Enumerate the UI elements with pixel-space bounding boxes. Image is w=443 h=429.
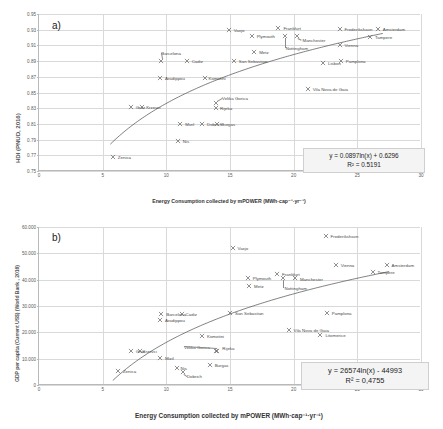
data-point-label: Nottingham: [286, 45, 308, 50]
data-point-marker[interactable]: [324, 311, 329, 316]
y-tick-label: 0.89: [27, 59, 36, 64]
data-point-label: Tampere: [375, 34, 392, 39]
x-tick-label: 10: [164, 387, 169, 392]
data-point-marker[interactable]: [179, 311, 184, 316]
trendline-r2: R² = 0.5191: [310, 161, 418, 170]
y-axis-label: HDI (PNUD, 2016): [14, 113, 21, 163]
data-point-label: Zenica: [118, 154, 131, 159]
data-point-marker[interactable]: [337, 26, 342, 31]
x-tick-label: 10: [164, 173, 169, 178]
x-tick-label: 20: [291, 387, 296, 392]
data-point-label: Vaxjo: [238, 245, 249, 250]
y-tick-label: 40.000: [22, 277, 36, 282]
y-tick-label: 0.75: [27, 169, 36, 174]
data-point-label: Manchester: [302, 37, 325, 42]
y-tick-label: 0.77: [27, 153, 36, 158]
x-tick-label: 20: [291, 173, 296, 178]
x-tick-label: 0: [38, 173, 41, 178]
data-point-marker[interactable]: [228, 311, 233, 316]
data-point-label: Vila Nova de Gaia: [294, 328, 329, 333]
data-point-label: Manchester: [300, 277, 323, 282]
data-point-marker[interactable]: [320, 60, 325, 65]
data-point-label: Litomerice: [325, 333, 345, 338]
data-point-marker[interactable]: [159, 311, 164, 316]
data-point-marker[interactable]: [199, 334, 204, 339]
trendline-equation: y = 0.0897ln(x) + 0.6296: [310, 152, 418, 161]
data-point-marker[interactable]: [368, 34, 373, 39]
y-tick-label: 0.91: [27, 43, 36, 48]
data-point-marker[interactable]: [226, 27, 231, 32]
x-tick-label: 15: [227, 387, 232, 392]
data-point-label: Plymouth: [257, 33, 275, 38]
data-point-marker[interactable]: [333, 262, 338, 267]
panel-tag: a): [52, 20, 61, 31]
y-tick-label: 0.93: [27, 27, 36, 32]
data-point-marker[interactable]: [128, 105, 133, 110]
data-point-marker[interactable]: [157, 318, 162, 323]
data-point-marker[interactable]: [286, 328, 291, 333]
trendline-equation: y = 26574ln(x) - 44993: [308, 366, 422, 376]
data-point-marker[interactable]: [174, 366, 179, 371]
y-tick-label: 30.000: [22, 304, 36, 309]
data-point-marker[interactable]: [207, 362, 212, 367]
data-point-marker[interactable]: [157, 356, 162, 361]
data-point-marker[interactable]: [202, 75, 207, 80]
chart-panel-a: 0510152025300.750.770.790.810.830.850.87…: [0, 0, 443, 214]
data-point-marker[interactable]: [215, 121, 220, 126]
data-point-marker[interactable]: [276, 26, 281, 31]
data-point-marker[interactable]: [275, 272, 280, 277]
label-leader-line: [285, 38, 286, 48]
data-point-marker[interactable]: [323, 233, 328, 238]
data-point-label: Dobrich: [187, 373, 202, 378]
data-point-marker[interactable]: [305, 86, 310, 91]
data-point-label: Cadiz: [192, 59, 203, 64]
data-point-marker[interactable]: [213, 349, 218, 354]
data-point-label: Barcelona: [161, 51, 181, 56]
data-point-label: Frankfurt: [283, 26, 301, 31]
data-point-marker[interactable]: [213, 106, 218, 111]
data-point-marker[interactable]: [231, 59, 236, 64]
data-point-label: Zenica: [123, 369, 136, 374]
data-point-marker[interactable]: [199, 121, 204, 126]
data-point-label: Velika Gorica: [222, 96, 248, 101]
y-tick-label: 10.000: [22, 356, 36, 361]
data-point-marker[interactable]: [110, 154, 115, 159]
data-point-marker[interactable]: [337, 43, 342, 48]
y-tick-label: 0.79: [27, 137, 36, 142]
data-point-marker[interactable]: [318, 333, 323, 338]
panel-tag: b): [52, 232, 61, 243]
data-point-marker[interactable]: [140, 105, 145, 110]
data-point-label: Rijeka: [222, 346, 234, 351]
y-tick-label: 0: [33, 383, 36, 388]
gridline-vertical: [421, 227, 422, 384]
data-point-marker[interactable]: [128, 348, 133, 353]
data-point-marker[interactable]: [230, 245, 235, 250]
data-point-marker[interactable]: [159, 59, 164, 64]
y-tick-label: 60.000: [22, 225, 36, 230]
data-point-label: Amsterdam: [392, 262, 414, 267]
chart-panel-b: 051015202530010.00020.00030.00040.00050.…: [0, 214, 443, 429]
data-point-marker[interactable]: [245, 276, 250, 281]
data-point-marker[interactable]: [137, 348, 142, 353]
x-tick-label: 15: [227, 173, 232, 178]
data-point-marker[interactable]: [175, 139, 180, 144]
data-point-marker[interactable]: [292, 276, 297, 281]
data-point-marker[interactable]: [247, 283, 252, 288]
data-point-marker[interactable]: [213, 101, 218, 106]
data-point-label: Frederikshavn: [345, 26, 373, 31]
data-point-marker[interactable]: [375, 26, 380, 31]
data-point-marker[interactable]: [370, 269, 375, 274]
data-point-marker[interactable]: [115, 369, 120, 374]
data-point-marker[interactable]: [384, 262, 389, 267]
y-tick-label: 0.83: [27, 106, 36, 111]
x-tick-label: 25: [355, 173, 360, 178]
data-point-marker[interactable]: [157, 75, 162, 80]
data-point-marker[interactable]: [178, 121, 183, 126]
data-point-marker[interactable]: [249, 33, 254, 38]
data-point-marker[interactable]: [184, 59, 189, 64]
y-tick-label: 0.85: [27, 90, 36, 95]
trendline-equation-box: y = 26574ln(x) - 44993R² = 0,4755: [301, 362, 429, 390]
trendline-equation-box: y = 0.0897ln(x) + 0.6296R² = 0.5191: [303, 148, 425, 173]
data-point-label: Vienna: [345, 43, 359, 48]
data-point-marker[interactable]: [252, 50, 257, 55]
